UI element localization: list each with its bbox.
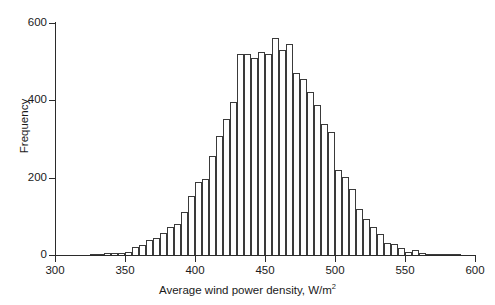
histogram-bar bbox=[174, 224, 181, 255]
x-axis-tick bbox=[335, 256, 336, 262]
histogram-bar bbox=[230, 102, 237, 255]
histogram-bar bbox=[286, 44, 293, 255]
histogram-bar bbox=[349, 189, 356, 256]
histogram-bar bbox=[314, 105, 321, 255]
histogram-bar bbox=[188, 196, 195, 255]
histogram-bar bbox=[237, 54, 244, 255]
x-axis-title-superscript: 2 bbox=[332, 282, 336, 291]
x-axis-tick-label: 350 bbox=[105, 264, 145, 276]
y-axis-tick bbox=[49, 23, 55, 24]
x-axis-title-text: Average wind power density, W/m bbox=[159, 284, 332, 296]
y-axis-tick-label: 600 bbox=[7, 17, 47, 28]
histogram-bar bbox=[293, 73, 300, 256]
histogram-bar bbox=[251, 58, 258, 255]
y-axis-title: Frequency bbox=[18, 81, 30, 171]
histogram-bar bbox=[335, 170, 342, 255]
x-axis-tick bbox=[405, 256, 406, 262]
histogram-bar bbox=[356, 209, 363, 255]
histogram-figure: 0200400600 300350400450500550600 Frequen… bbox=[0, 0, 495, 305]
plot-area bbox=[55, 23, 475, 255]
histogram-bar bbox=[370, 227, 377, 255]
histogram-bar bbox=[132, 247, 139, 256]
histogram-bar bbox=[377, 234, 384, 255]
x-axis-tick bbox=[265, 256, 266, 262]
x-axis-tick-label: 600 bbox=[455, 264, 495, 276]
histogram-bar bbox=[223, 119, 230, 255]
histogram-bar bbox=[272, 38, 279, 255]
histogram-bar bbox=[160, 233, 167, 255]
y-axis-line bbox=[55, 22, 56, 256]
y-axis-tick bbox=[49, 100, 55, 101]
x-axis-tick bbox=[195, 256, 196, 262]
histogram-bar bbox=[300, 79, 307, 255]
x-axis-tick bbox=[55, 256, 56, 262]
x-axis-tick-label: 500 bbox=[315, 264, 355, 276]
histogram-bar bbox=[363, 219, 370, 255]
histogram-bar bbox=[209, 156, 216, 255]
histogram-bar bbox=[216, 136, 223, 255]
histogram-bars bbox=[55, 23, 475, 255]
histogram-bar bbox=[167, 227, 174, 255]
x-axis-tick-label: 300 bbox=[35, 264, 75, 276]
histogram-bar bbox=[384, 243, 391, 255]
histogram-bar bbox=[181, 212, 188, 255]
histogram-bar bbox=[146, 240, 153, 255]
x-axis-tick bbox=[125, 256, 126, 262]
y-axis-tick bbox=[49, 178, 55, 179]
y-axis-tick-label: 0 bbox=[7, 249, 47, 260]
histogram-bar bbox=[202, 179, 209, 255]
x-axis-tick-label: 400 bbox=[175, 264, 215, 276]
histogram-bar bbox=[279, 50, 286, 255]
histogram-bar bbox=[391, 244, 398, 255]
y-axis-tick-label: 200 bbox=[7, 172, 47, 183]
histogram-bar bbox=[139, 245, 146, 255]
histogram-bar bbox=[307, 92, 314, 255]
histogram-bar bbox=[328, 132, 335, 255]
histogram-bar bbox=[244, 54, 251, 255]
x-axis-tick bbox=[475, 256, 476, 262]
histogram-bar bbox=[321, 124, 328, 255]
histogram-bar bbox=[398, 248, 405, 255]
x-axis-title: Average wind power density, W/m2 bbox=[0, 282, 495, 296]
x-axis-tick-label: 550 bbox=[385, 264, 425, 276]
histogram-bar bbox=[265, 54, 272, 255]
histogram-bar bbox=[258, 52, 265, 255]
histogram-bar bbox=[195, 182, 202, 255]
histogram-bar bbox=[153, 238, 160, 255]
histogram-bar bbox=[342, 177, 349, 255]
x-axis-tick-label: 450 bbox=[245, 264, 285, 276]
